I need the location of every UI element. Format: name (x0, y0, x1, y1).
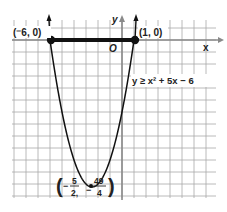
svg-text:(: ( (56, 175, 63, 197)
y-axis-label: y (111, 14, 118, 25)
inequality-label: y ≥ x² + 5x − 6 (132, 75, 194, 86)
point-left-label: (⁻6, 0) (13, 27, 41, 38)
point-right-label: (1, 0) (139, 27, 162, 38)
svg-text:2,: 2, (71, 188, 78, 198)
point-right (131, 36, 139, 44)
svg-text:−: − (86, 185, 91, 195)
svg-text:49: 49 (94, 176, 104, 186)
x-axis-arrow-icon (218, 37, 224, 43)
svg-text:−: − (63, 181, 68, 191)
y-axis-arrow-icon (119, 15, 125, 22)
graph: (⁻6, 0) (1, 0) y x O y ≥ x² + 5x − 6 ( −… (0, 0, 227, 212)
left-arrow-icon (47, 14, 52, 21)
vertex-label: ( − 5 2, − 49 4 ) (56, 175, 115, 198)
svg-text:4: 4 (97, 188, 102, 198)
x-axis-label: x (203, 42, 209, 53)
svg-text:5: 5 (72, 176, 77, 186)
svg-text:): ) (108, 175, 115, 197)
origin-label: O (109, 43, 117, 54)
right-arrow-icon (134, 14, 139, 21)
